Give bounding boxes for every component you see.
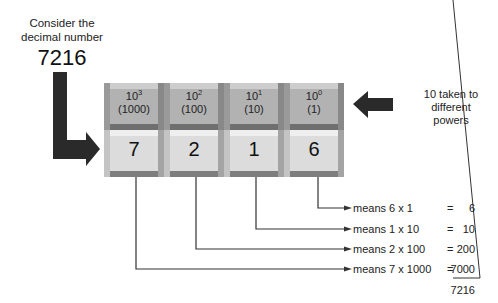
- connector-1: [256, 177, 345, 229]
- power-cell: 100(1): [284, 83, 344, 130]
- power-cell: 103(1000): [104, 83, 164, 130]
- left-arrow-icon: [353, 91, 393, 118]
- connector-7: [136, 177, 345, 269]
- power-cell: 101(10): [224, 83, 284, 130]
- sum-rule: [453, 0, 480, 278]
- arrowhead-icon: [344, 267, 352, 272]
- digit-cell: 1: [224, 130, 284, 177]
- digit-cell: 7: [104, 130, 164, 177]
- place-value-grid: 103(1000) 102(100) 101(10) 100(1) 7 2 1 …: [104, 83, 344, 177]
- power-cell: 102(100): [164, 83, 224, 130]
- digit-cell: 6: [284, 130, 344, 177]
- connector-2: [196, 177, 345, 249]
- powers-label: 10 taken to different powers: [408, 88, 494, 127]
- arrowhead-icon: [344, 227, 352, 232]
- l-arrow-icon: [53, 72, 100, 166]
- digit-cell: 2: [164, 130, 224, 177]
- arrowhead-icon: [344, 247, 352, 252]
- arrowhead-icon: [344, 206, 352, 211]
- connector-6: [318, 177, 345, 208]
